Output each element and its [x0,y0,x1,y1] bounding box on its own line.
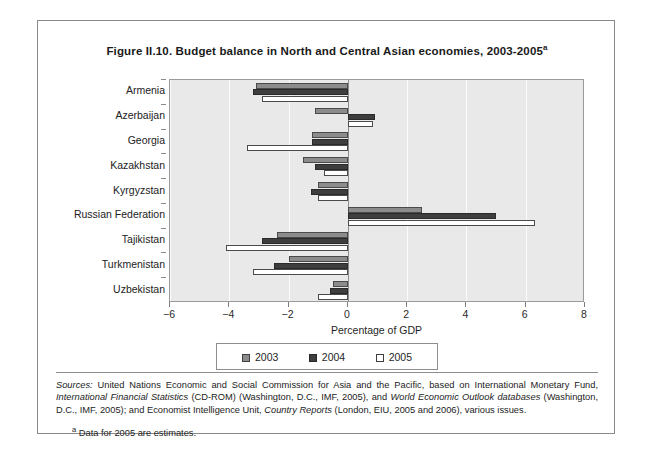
y-axis-label-georgia: Georgia [35,134,165,146]
bar-russian-federation-2005 [348,220,535,226]
y-axis-label-azerbaijan: Azerbaijan [35,109,165,121]
sources-label: Sources: [56,380,93,390]
legend-entry-2004[interactable]: 2004 [309,351,345,363]
y-tick-mark [161,153,166,154]
legend-swatch-2005-icon [376,354,384,362]
y-tick-mark [161,79,166,80]
x-tick-label: −2 [268,308,308,320]
bar-azerbaijan-2004 [348,114,375,120]
y-axis-label-russian-federation: Russian Federation [35,208,165,220]
x-tick-label: 2 [386,308,426,320]
bar-armenia-2005 [262,96,348,102]
gridline [407,80,408,301]
x-tick-mark [525,302,526,307]
figure-card: Figure II.10. Budget balance in North an… [37,20,615,434]
bar-tajikistan-2003 [277,232,348,238]
y-tick-mark [161,203,166,204]
x-tick-label: 6 [505,308,545,320]
sources-text-4: (London, EIU, 2005 and 2006), various is… [332,405,526,415]
sources-text-1: United Nations Economic and Social Commi… [93,380,598,390]
y-axis-label-tajikistan: Tajikistan [35,233,165,245]
bar-kazakhstan-2003 [303,157,347,163]
legend-box: 2003 2004 2005 [216,343,438,370]
y-tick-mark [161,228,166,229]
plot-area [169,79,584,302]
sources-note: Sources: United Nations Economic and Soc… [56,379,598,416]
bar-turkmenistan-2005 [253,269,348,275]
y-axis-label-kazakhstan: Kazakhstan [35,159,165,171]
gridline [170,80,171,301]
bar-azerbaijan-2005 [348,121,373,127]
bar-russian-federation-2003 [348,207,422,213]
x-tick-mark [228,302,229,307]
legend-entry-2003[interactable]: 2003 [242,351,278,363]
sources-italic-3: Country Reports [264,405,332,415]
bar-kazakhstan-2004 [315,164,348,170]
bar-kyrgyzstan-2005 [318,195,348,201]
x-axis-title: Percentage of GDP [169,324,584,336]
bar-uzbekistan-2005 [318,294,348,300]
figure-title-text: Figure II.10. Budget balance in North an… [106,45,543,57]
gridline [526,80,527,301]
x-tick-mark [584,302,585,307]
figure-title-superscript: a [543,43,548,52]
chart-legend: 2003 2004 2005 [38,343,616,370]
y-tick-mark [161,178,166,179]
y-tick-mark [161,252,166,253]
legend-entry-2005[interactable]: 2005 [376,351,412,363]
x-tick-mark [347,302,348,307]
bar-azerbaijan-2003 [315,108,348,114]
x-tick-label: −4 [208,308,248,320]
y-tick-mark [161,277,166,278]
bar-uzbekistan-2003 [333,281,348,287]
bar-turkmenistan-2003 [289,256,348,262]
plot-wrapper [169,79,584,302]
y-axis-label-armenia: Armenia [35,84,165,96]
gridline [466,80,467,301]
notes-divider [56,372,598,373]
bar-tajikistan-2005 [226,245,348,251]
y-axis-labels: ArmeniaAzerbaijanGeorgiaKazakhstanKyrgyz… [34,79,165,302]
bar-tajikistan-2004 [262,238,348,244]
bar-armenia-2004 [253,89,348,95]
bar-kazakhstan-2005 [324,170,348,176]
x-tick-mark [288,302,289,307]
bar-georgia-2003 [312,132,348,138]
bar-russian-federation-2004 [348,213,496,219]
legend-label-2005: 2005 [389,351,412,363]
bar-kyrgyzstan-2004 [311,189,348,195]
bar-georgia-2005 [247,145,348,151]
y-tick-mark [161,129,166,130]
x-tick-label: −6 [149,308,189,320]
sources-italic-1: International Financial Statistics [56,392,188,402]
x-tick-mark [169,302,170,307]
footnote-a: a Data for 2005 are estimates. [56,424,598,440]
x-tick-label: 8 [564,308,604,320]
x-tick-label: 0 [327,308,367,320]
footnote-text: Data for 2005 are estimates. [76,428,196,438]
y-tick-mark [161,104,166,105]
y-axis-label-turkmenistan: Turkmenistan [35,258,165,270]
legend-label-2004: 2004 [322,351,345,363]
bar-turkmenistan-2004 [274,263,348,269]
legend-swatch-2003-icon [242,354,250,362]
bar-georgia-2004 [312,139,348,145]
sources-italic-2: World Economic Outlook databases [390,392,540,402]
y-axis-label-uzbekistan: Uzbekistan [35,283,165,295]
sources-text-2: (CD-ROM) (Washington, D.C., IMF, 2005), … [188,392,390,402]
bar-armenia-2003 [256,83,348,89]
x-axis-ticks: −6−4−202468 [169,302,584,308]
legend-swatch-2004-icon [309,354,317,362]
gridline [229,80,230,301]
x-tick-mark [465,302,466,307]
y-axis-label-kyrgyzstan: Kyrgyzstan [35,184,165,196]
legend-label-2003: 2003 [255,351,278,363]
figure-title: Figure II.10. Budget balance in North an… [38,43,616,57]
x-tick-mark [406,302,407,307]
bar-kyrgyzstan-2003 [318,182,348,188]
bar-uzbekistan-2004 [330,288,348,294]
zero-line [348,80,349,301]
x-tick-label: 4 [445,308,485,320]
